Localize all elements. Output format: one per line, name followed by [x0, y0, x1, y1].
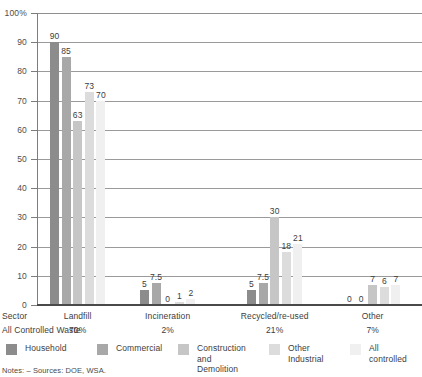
- gridline: [37, 159, 422, 160]
- bar: [85, 92, 94, 305]
- gridline: [37, 13, 422, 14]
- chart-root: 0102030405060708090100% Sector LandfillI…: [0, 0, 422, 377]
- sector-row-label: Sector: [2, 311, 27, 321]
- bar-value-label: 7.5: [252, 272, 275, 282]
- bar: [270, 217, 279, 305]
- plot-area: [37, 13, 422, 305]
- bar-value-label: 70: [89, 90, 112, 100]
- bar-value-label: 21: [286, 233, 309, 243]
- y-tick-label: 80: [0, 66, 27, 76]
- legend-label: Other Industrial: [288, 343, 323, 364]
- bar: [247, 290, 256, 305]
- bar: [380, 287, 389, 305]
- bar-value-label: 2: [179, 288, 202, 298]
- bar: [282, 252, 291, 305]
- y-tick-label: 10: [0, 271, 27, 281]
- bar: [50, 42, 59, 305]
- legend-swatch-icon: [97, 344, 108, 355]
- y-axis-line: [37, 13, 38, 306]
- y-tick-label: 90: [0, 37, 27, 47]
- all-controlled-waste-cell: 7%: [328, 325, 418, 335]
- legend-label: Construction and Demolition: [197, 343, 246, 375]
- sector-cell: Incineration: [123, 311, 213, 321]
- gridline: [37, 101, 422, 102]
- footer-notes: Notes: – Sources: DOE, WSA.: [2, 366, 106, 375]
- bar: [96, 101, 105, 305]
- chart-legend: HouseholdCommercialConstruction and Demo…: [0, 343, 422, 365]
- y-tick-label: 60: [0, 125, 27, 135]
- y-tick-label: 100%: [0, 8, 27, 18]
- x-axis-line: [37, 304, 422, 306]
- sector-cell: Landfill: [33, 311, 123, 321]
- bar-value-label: 0: [350, 294, 373, 304]
- y-tick-label: 40: [0, 183, 27, 193]
- gridline: [37, 217, 422, 218]
- bar: [293, 244, 302, 305]
- all-controlled-waste-cell: 21%: [230, 325, 320, 335]
- gridline: [37, 247, 422, 248]
- bar-value-label: 7: [384, 274, 407, 284]
- y-tick-label: 20: [0, 242, 27, 252]
- gridline: [37, 130, 422, 131]
- gridline: [37, 188, 422, 189]
- legend-swatch-icon: [178, 344, 189, 355]
- legend-swatch-icon: [269, 344, 280, 355]
- y-tick-label: 50: [0, 154, 27, 164]
- y-tick-label: 0: [0, 300, 27, 310]
- sector-cell: Recycled/re-used: [230, 311, 320, 321]
- bar: [140, 290, 149, 305]
- y-tick-label: 70: [0, 96, 27, 106]
- gridline: [37, 42, 422, 43]
- legend-label: Commercial: [116, 343, 162, 354]
- bar-value-label: 90: [43, 31, 66, 41]
- all-controlled-waste-cell: 2%: [123, 325, 213, 335]
- legend-swatch-icon: [350, 344, 361, 355]
- bar: [391, 285, 400, 305]
- bar-value-label: 30: [263, 206, 286, 216]
- legend-swatch-icon: [6, 344, 17, 355]
- bar-value-label: 7.5: [145, 272, 168, 282]
- gridline: [37, 71, 422, 72]
- legend-label: All controlled: [369, 343, 407, 364]
- bar-value-label: 63: [66, 110, 89, 120]
- all-controlled-waste-cell: 70%: [33, 325, 123, 335]
- bar-value-label: 18: [275, 241, 298, 251]
- bar: [73, 121, 82, 305]
- y-tick-label: 30: [0, 212, 27, 222]
- sector-cell: Other: [328, 311, 418, 321]
- bar-value-label: 85: [55, 46, 78, 56]
- bar: [62, 57, 71, 305]
- legend-label: Household: [25, 343, 67, 354]
